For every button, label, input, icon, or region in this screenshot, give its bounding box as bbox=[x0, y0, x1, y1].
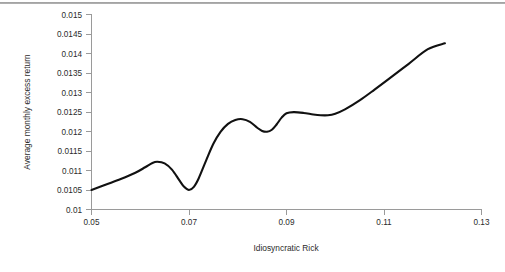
y-tick-marks bbox=[86, 15, 92, 210]
x-tick-labels: 0.05 0.07 0.09 0.11 0.13 bbox=[84, 218, 490, 227]
x-tick-label: 0.13 bbox=[474, 218, 490, 227]
data-series-line bbox=[92, 43, 445, 190]
y-axis-title: Average monthly excess return bbox=[22, 54, 32, 170]
y-tick-label: 0.0115 bbox=[58, 147, 83, 156]
y-tick-label: 0.0105 bbox=[57, 186, 82, 195]
y-tick-label: 0.0145 bbox=[57, 30, 82, 39]
y-tick-label: 0.011 bbox=[62, 167, 82, 176]
y-tick-label: 0.014 bbox=[62, 50, 83, 59]
x-axis-title: Idiosyncratic Rick bbox=[253, 243, 319, 253]
x-tick-label: 0.07 bbox=[181, 218, 197, 227]
line-chart: 0.015 0.0145 0.014 0.0135 0.013 0.0125 0… bbox=[0, 0, 505, 272]
y-tick-label: 0.015 bbox=[62, 11, 83, 20]
y-tick-labels: 0.015 0.0145 0.014 0.0135 0.013 0.0125 0… bbox=[57, 11, 82, 215]
x-tick-label: 0.11 bbox=[376, 218, 392, 227]
y-tick-label: 0.0135 bbox=[57, 69, 82, 78]
chart-figure: 0.015 0.0145 0.014 0.0135 0.013 0.0125 0… bbox=[0, 0, 505, 272]
y-tick-label: 0.013 bbox=[62, 89, 83, 98]
x-tick-label: 0.09 bbox=[279, 218, 295, 227]
x-tick-marks bbox=[92, 210, 482, 216]
y-tick-label: 0.012 bbox=[62, 128, 83, 137]
y-tick-label: 0.0125 bbox=[57, 108, 82, 117]
x-tick-label: 0.05 bbox=[84, 218, 100, 227]
y-tick-label: 0.01 bbox=[66, 206, 82, 215]
